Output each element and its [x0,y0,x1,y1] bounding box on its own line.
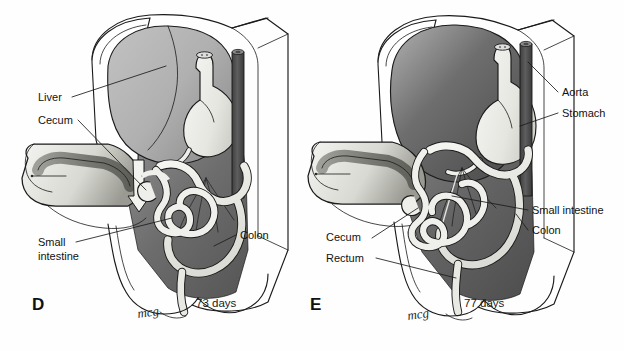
label-E-rectum: Rectum [326,252,364,264]
anatomical-figure-svg: D 73 days mcg Liver Cecum Small intestin… [0,0,624,351]
panel-D-umbilical-cord [22,144,146,229]
panel-D-age: 73 days [196,297,237,309]
panel-D: D 73 days mcg Liver Cecum Small intestin… [22,15,288,321]
label-D-colon: Colon [240,229,269,241]
label-E-colon: Colon [532,224,561,236]
leader-aorta [528,62,558,92]
label-D-small-intestine-line1: Small [38,236,66,248]
label-D-liver: Liver [38,91,62,103]
panel-D-esophagus-lumen [197,52,213,58]
label-E-stomach: Stomach [562,107,605,119]
panel-E-age: 77 days [464,297,505,309]
label-E-cecum: Cecum [326,231,361,243]
label-E-small-intestine: Small intestine [532,204,604,216]
panel-D-signature: mcg [136,303,160,321]
panel-D-aorta [232,52,244,198]
panel-E-signature: mcg [406,305,430,323]
panel-D-letter: D [32,295,44,314]
label-E-aorta: Aorta [562,86,589,98]
label-D-cecum: Cecum [38,114,73,126]
label-D-small-intestine-line2: intestine [38,250,79,262]
panel-E-letter: E [310,295,321,314]
figure-container: D 73 days mcg Liver Cecum Small intestin… [0,0,624,351]
panel-E-esophagus-lumen [495,44,511,50]
panel-E: E 77 days mcg Aorta Stomach Small intest… [308,16,605,323]
